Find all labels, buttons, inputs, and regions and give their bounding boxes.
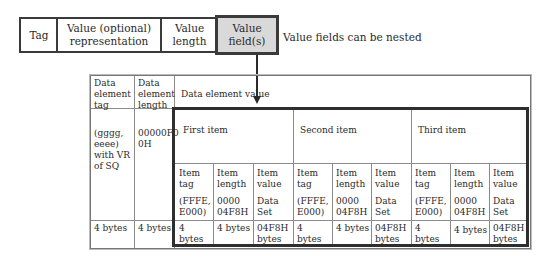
item-tag-size: 4 bytes: [294, 221, 331, 247]
item-value-header: Item value: [490, 166, 528, 192]
item-tag-header: Item tag: [412, 166, 449, 192]
item-tag-value: (FFFE, E000): [412, 194, 452, 220]
header-data-element-length: Data element length: [135, 76, 175, 113]
field-value-fields-label: Value field(s): [227, 22, 267, 48]
item-value-value: Data Set: [490, 194, 528, 220]
item-value-value: Data Set: [254, 194, 293, 220]
item-tag-value: (FFFE, E000): [294, 194, 334, 220]
item-tag-header: Item tag: [294, 166, 331, 192]
item-value-header: Item value: [254, 166, 293, 192]
item-tag-value: (FFFE, E000): [176, 194, 216, 220]
item-length-header: Item length: [214, 166, 254, 192]
item-length-header: Item length: [451, 166, 491, 192]
item-title-second: Second item: [297, 123, 397, 138]
item-length-value: 0000 04F8H: [451, 194, 491, 220]
item-tag-header: Item tag: [176, 166, 213, 192]
item-value-size: 04F8H bytes: [254, 221, 294, 247]
item-length-header: Item length: [333, 166, 373, 192]
field-tag-label: Tag: [29, 29, 48, 42]
item-tag-size: 4 bytes: [176, 221, 213, 247]
length-value: 00000F0 0H: [135, 126, 175, 152]
field-value-representation: Value (optional) representation: [58, 19, 160, 51]
item-length-value: 0000 04F8H: [214, 194, 254, 220]
tag-size: 4 bytes: [91, 221, 131, 236]
field-tag: Tag: [21, 19, 57, 51]
length-size: 4 bytes: [135, 221, 175, 236]
field-vr-label: Value (optional) representation: [64, 22, 154, 48]
field-structure-row: Tag Value (optional) representation Valu…: [19, 17, 217, 53]
header-data-element-value: Data element value: [178, 87, 298, 102]
field-value-fields: Value field(s): [215, 15, 279, 55]
tag-value: (gggg, eeee) with VR of SQ: [91, 126, 135, 174]
field-value-length: Value length: [162, 19, 217, 51]
item-length-size: 4 bytes: [333, 221, 373, 236]
field-value-length-label: Value length: [170, 22, 210, 48]
header-data-element-tag: Data element tag: [91, 76, 135, 113]
item-tag-size: 4 bytes: [412, 221, 449, 247]
item-value-header: Item value: [372, 166, 411, 192]
divider: [175, 163, 526, 164]
item-value-value: Data Set: [372, 194, 411, 220]
item-title-third: Third item: [415, 123, 515, 138]
nested-note: Value fields can be nested: [283, 31, 422, 43]
item-value-size: 04F8H bytes: [490, 221, 528, 247]
item-length-value: 0000 04F8H: [333, 194, 373, 220]
item-length-size: 4 bytes: [451, 223, 491, 238]
item-value-size: 04F8H bytes: [372, 221, 412, 247]
item-length-size: 4 bytes: [214, 221, 254, 236]
item-title-first: First item: [180, 123, 280, 138]
